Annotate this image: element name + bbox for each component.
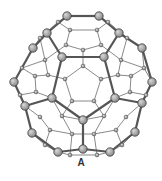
atom-back	[142, 66, 146, 70]
atom-front	[100, 53, 108, 61]
bond	[83, 45, 101, 50]
atom-back	[43, 58, 47, 62]
bond	[35, 76, 36, 92]
atom-back	[119, 58, 123, 62]
atom-back	[81, 64, 85, 68]
atom-back	[46, 73, 50, 77]
atom-front	[95, 12, 103, 20]
atom-front	[63, 12, 71, 20]
atom-front	[58, 53, 66, 61]
atom-front	[115, 29, 123, 37]
bond	[121, 38, 127, 60]
atom-back	[63, 77, 67, 81]
bond	[130, 92, 146, 95]
bond	[110, 132, 135, 152]
bond	[94, 116, 104, 134]
bond	[62, 116, 72, 134]
atom-front	[21, 102, 29, 110]
atom-back	[120, 143, 124, 147]
atom-back	[33, 74, 37, 78]
atom-back	[81, 48, 85, 52]
atom-front	[138, 44, 146, 52]
atom-back	[34, 90, 38, 94]
bond	[94, 134, 97, 155]
bond	[94, 79, 101, 101]
bond	[20, 92, 36, 95]
atom-back	[64, 43, 68, 47]
atom-back	[99, 43, 103, 47]
atom-back	[56, 20, 60, 24]
bond	[50, 130, 72, 134]
bond	[65, 66, 83, 79]
bond	[40, 117, 50, 130]
bond	[121, 60, 144, 68]
atom-back	[38, 36, 42, 40]
atom-front	[54, 148, 62, 156]
bond	[116, 117, 126, 130]
atom-front	[131, 128, 139, 136]
atom-front	[138, 99, 146, 107]
atom-back	[114, 128, 118, 132]
bond	[22, 68, 35, 76]
atom-front	[148, 78, 156, 86]
bond	[118, 60, 121, 75]
bond	[45, 60, 48, 75]
figure-label: A	[0, 157, 162, 168]
bond	[130, 76, 131, 92]
atom-back	[116, 73, 120, 77]
bond	[97, 30, 101, 45]
atom-back	[92, 99, 96, 103]
atom-back	[129, 74, 133, 78]
atom-back	[92, 132, 96, 136]
atom-back	[95, 28, 99, 32]
atom-front	[29, 44, 37, 52]
bond	[65, 79, 72, 101]
bond	[32, 133, 58, 152]
fullerene-diagram	[0, 0, 162, 160]
atom-back	[70, 132, 74, 136]
bond	[83, 66, 101, 79]
atom-back	[38, 115, 42, 119]
bond	[66, 30, 70, 45]
atom-back	[68, 28, 72, 32]
atom-front	[10, 78, 18, 86]
atom-front	[79, 145, 87, 153]
atom-back	[48, 128, 52, 132]
atom-back	[124, 115, 128, 119]
atom-back	[70, 99, 74, 103]
atom-back	[60, 114, 64, 118]
atom-back	[102, 114, 106, 118]
bond	[66, 45, 83, 50]
bond	[52, 57, 62, 98]
atom-back	[144, 93, 148, 97]
atom-back	[18, 93, 22, 97]
bond	[131, 68, 144, 76]
atom-back	[99, 77, 103, 81]
atom-front	[48, 94, 56, 102]
bond	[70, 134, 72, 155]
atom-back	[106, 20, 110, 24]
atom-back	[128, 90, 132, 94]
atom-front	[111, 94, 119, 102]
atom-back	[20, 66, 24, 70]
atom-front	[79, 116, 87, 124]
atom-front	[43, 29, 51, 37]
atom-front	[106, 148, 114, 156]
atom-front	[28, 129, 36, 137]
atom-back	[43, 143, 47, 147]
atom-back	[125, 36, 129, 40]
bond	[94, 130, 116, 134]
